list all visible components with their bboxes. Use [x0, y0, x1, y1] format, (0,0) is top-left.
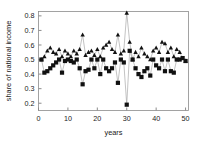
data-point-square: [95, 57, 99, 61]
data-point-square: [122, 60, 126, 64]
data-point-triangle: [72, 48, 76, 52]
x-tick-label: 30: [123, 114, 131, 123]
data-point-square: [86, 68, 90, 72]
data-point-triangle: [127, 40, 131, 44]
data-point-square: [148, 73, 152, 77]
data-point-square: [125, 103, 129, 107]
data-point-triangle: [107, 40, 111, 44]
y-tick-label: 0.8: [25, 11, 35, 20]
y-axis-title: share of national income: [4, 21, 13, 102]
y-tick-label: 0.4: [25, 70, 35, 79]
data-point-square: [151, 57, 155, 61]
data-point-square: [81, 82, 85, 86]
data-point-square: [75, 57, 79, 61]
data-point-triangle: [154, 45, 158, 49]
y-tick-label: 0.2: [25, 99, 35, 108]
data-point-triangle: [133, 50, 137, 54]
data-point-square: [110, 66, 114, 70]
data-point-triangle: [142, 51, 146, 55]
data-point-triangle: [77, 47, 81, 51]
data-point-square: [39, 57, 43, 61]
data-point-square: [60, 71, 64, 75]
x-tick-label: 20: [93, 114, 101, 123]
data-point-triangle: [95, 47, 99, 51]
y-axis-tick-labels: 0.20.30.40.50.60.70.8: [25, 11, 35, 107]
x-axis-title: years: [104, 128, 122, 137]
data-point-square: [183, 59, 187, 63]
data-point-triangle: [57, 47, 61, 51]
x-axis-tick-labels: 01020304050: [37, 114, 190, 123]
data-point-square: [163, 69, 167, 73]
data-point-square: [57, 57, 61, 61]
data-point-triangle: [175, 47, 179, 51]
data-point-square: [128, 49, 132, 53]
y-tick-label: 0.5: [25, 55, 35, 64]
data-point-square: [98, 72, 102, 76]
data-point-square: [92, 66, 96, 70]
data-point-square: [139, 75, 143, 79]
data-series-layer: [39, 11, 188, 107]
chart-figure: 0.20.30.40.50.60.70.8 01020304050 years …: [0, 0, 203, 142]
data-point-square: [113, 60, 117, 64]
data-point-triangle: [116, 32, 120, 36]
data-point-square: [157, 66, 161, 70]
data-point-square: [116, 81, 120, 85]
data-point-triangle: [139, 45, 143, 49]
data-point-triangle: [160, 40, 164, 44]
data-point-triangle: [122, 48, 126, 52]
data-point-triangle: [80, 32, 84, 36]
y-tick-label: 0.3: [25, 84, 35, 93]
data-point-square: [160, 57, 164, 61]
data-point-square: [145, 66, 149, 70]
y-tick-label: 0.6: [25, 41, 35, 50]
data-point-square: [78, 66, 82, 70]
x-tick-label: 10: [64, 114, 72, 123]
x-tick-label: 50: [182, 114, 190, 123]
data-point-triangle: [63, 48, 67, 52]
y-tick-label: 0.7: [25, 26, 35, 35]
data-point-square: [166, 57, 170, 61]
data-point-square: [101, 57, 105, 61]
data-point-square: [172, 71, 176, 75]
data-point-triangle: [169, 45, 173, 49]
axis-tickmarks: [39, 16, 186, 111]
data-point-triangle: [89, 48, 93, 52]
data-point-square: [89, 57, 93, 61]
chart-svg: 0.20.30.40.50.60.70.8 01020304050 years …: [0, 0, 203, 142]
data-point-triangle: [110, 47, 114, 51]
x-tick-label: 40: [152, 114, 160, 123]
data-point-square: [131, 57, 135, 61]
data-point-square: [133, 66, 137, 70]
x-tick-label: 0: [37, 114, 41, 123]
data-point-triangle: [48, 45, 52, 49]
